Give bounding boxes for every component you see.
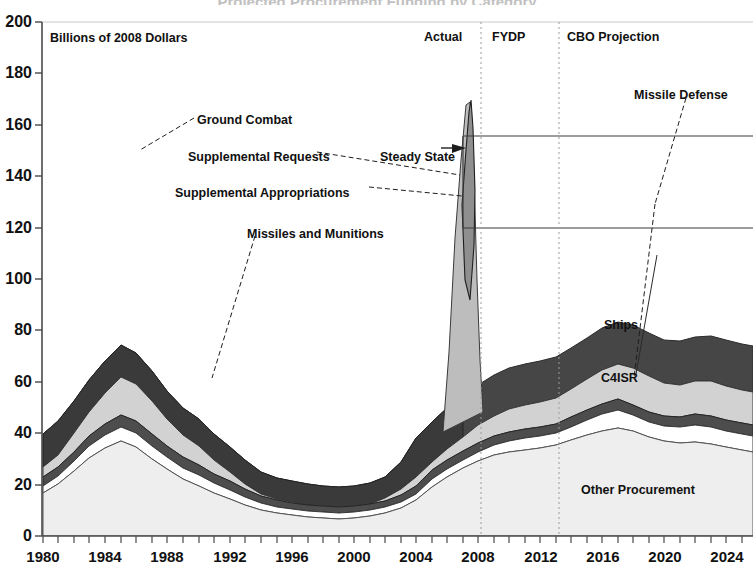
x-tick-2000: 2000 bbox=[324, 548, 384, 565]
x-tick-2008: 2008 bbox=[448, 548, 508, 565]
x-tick-1992: 1992 bbox=[200, 548, 260, 565]
x-tick-1980: 1980 bbox=[13, 548, 73, 565]
callout-steady-state: Steady State bbox=[380, 150, 455, 164]
y-tick-200: 200 bbox=[2, 13, 32, 31]
band-label-other-procurement: Other Procurement bbox=[581, 483, 695, 497]
callout-missile-defense: Missile Defense bbox=[634, 88, 728, 102]
y-axis-ticks bbox=[35, 22, 42, 536]
x-tick-1988: 1988 bbox=[137, 548, 197, 565]
y-tick-0: 0 bbox=[2, 527, 32, 545]
period-label-fydp: FYDP bbox=[492, 30, 525, 44]
y-tick-160: 160 bbox=[2, 116, 32, 134]
x-tick-1984: 1984 bbox=[75, 548, 135, 565]
callout-supplemental-appropriations: Supplemental Appropriations bbox=[175, 186, 350, 200]
x-tick-2016: 2016 bbox=[573, 548, 633, 565]
y-tick-40: 40 bbox=[2, 424, 32, 442]
y-tick-180: 180 bbox=[2, 64, 32, 82]
x-axis-ticks bbox=[43, 536, 742, 543]
callout-missiles-and-munitions: Missiles and Munitions bbox=[247, 227, 384, 241]
band-label-ships: Ships bbox=[604, 318, 638, 332]
callout-supplemental-requests: Supplemental Requests bbox=[188, 150, 330, 164]
y-tick-140: 140 bbox=[2, 167, 32, 185]
band-label-aircraft: Aircraft bbox=[596, 273, 640, 287]
x-tick-2020: 2020 bbox=[635, 548, 695, 565]
y-tick-100: 100 bbox=[2, 270, 32, 288]
x-tick-2004: 2004 bbox=[386, 548, 446, 565]
period-label-actual: Actual bbox=[424, 30, 462, 44]
chart-figure: Projected Procurement Funding by Categor… bbox=[0, 0, 754, 572]
x-tick-1996: 1996 bbox=[262, 548, 322, 565]
y-tick-60: 60 bbox=[2, 373, 32, 391]
y-tick-80: 80 bbox=[2, 321, 32, 339]
callout-ground-combat: Ground Combat bbox=[197, 113, 292, 127]
y-tick-20: 20 bbox=[2, 476, 32, 494]
period-label-cbo: CBO Projection bbox=[567, 30, 659, 44]
x-tick-2024: 2024 bbox=[697, 548, 754, 565]
y-tick-120: 120 bbox=[2, 219, 32, 237]
x-tick-2012: 2012 bbox=[511, 548, 571, 565]
band-label-c4isr: C4ISR bbox=[601, 371, 638, 385]
units-note: Billions of 2008 Dollars bbox=[50, 31, 188, 45]
